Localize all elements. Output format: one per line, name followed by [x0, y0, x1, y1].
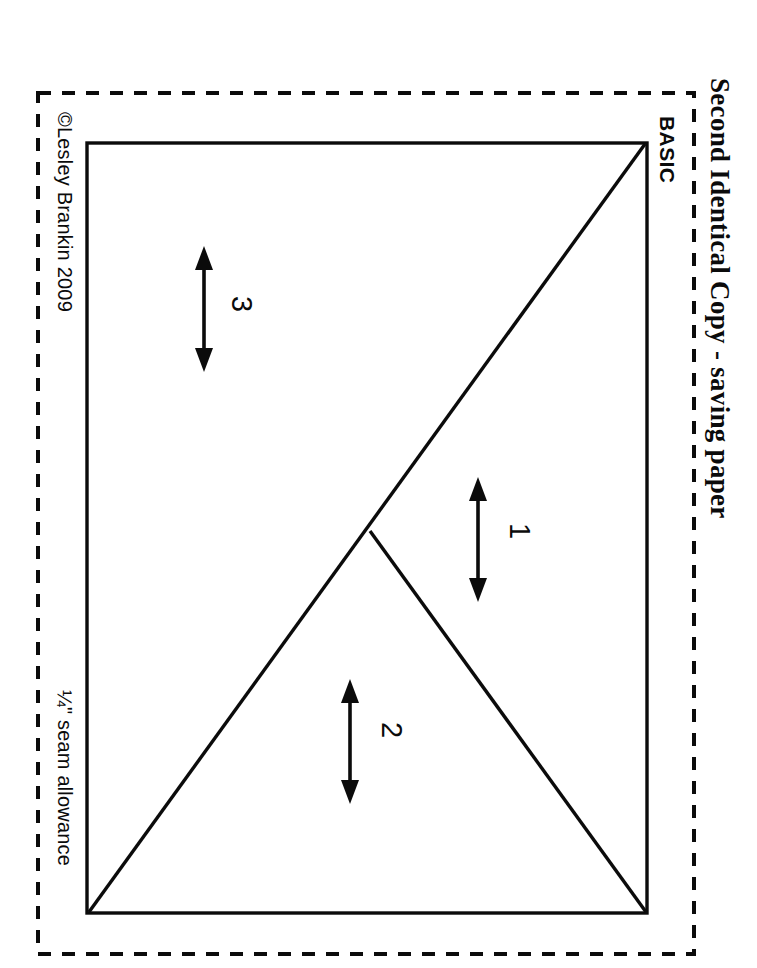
seam-allowance-label: ¼" seam allowance: [55, 690, 75, 866]
pattern-drawing: [0, 0, 757, 968]
pattern-sheet: Second Identical Copy - saving paper ©Le…: [0, 0, 757, 968]
piece-label-1: 1: [505, 523, 534, 539]
block-name-label: BASIC: [657, 116, 678, 183]
sheet-title: Second Identical Copy - saving paper: [706, 78, 733, 519]
copyright-notice: ©Lesley Brankin 2009: [55, 112, 75, 312]
piece-label-2: 2: [377, 722, 406, 738]
piece-label-3: 3: [227, 296, 256, 312]
